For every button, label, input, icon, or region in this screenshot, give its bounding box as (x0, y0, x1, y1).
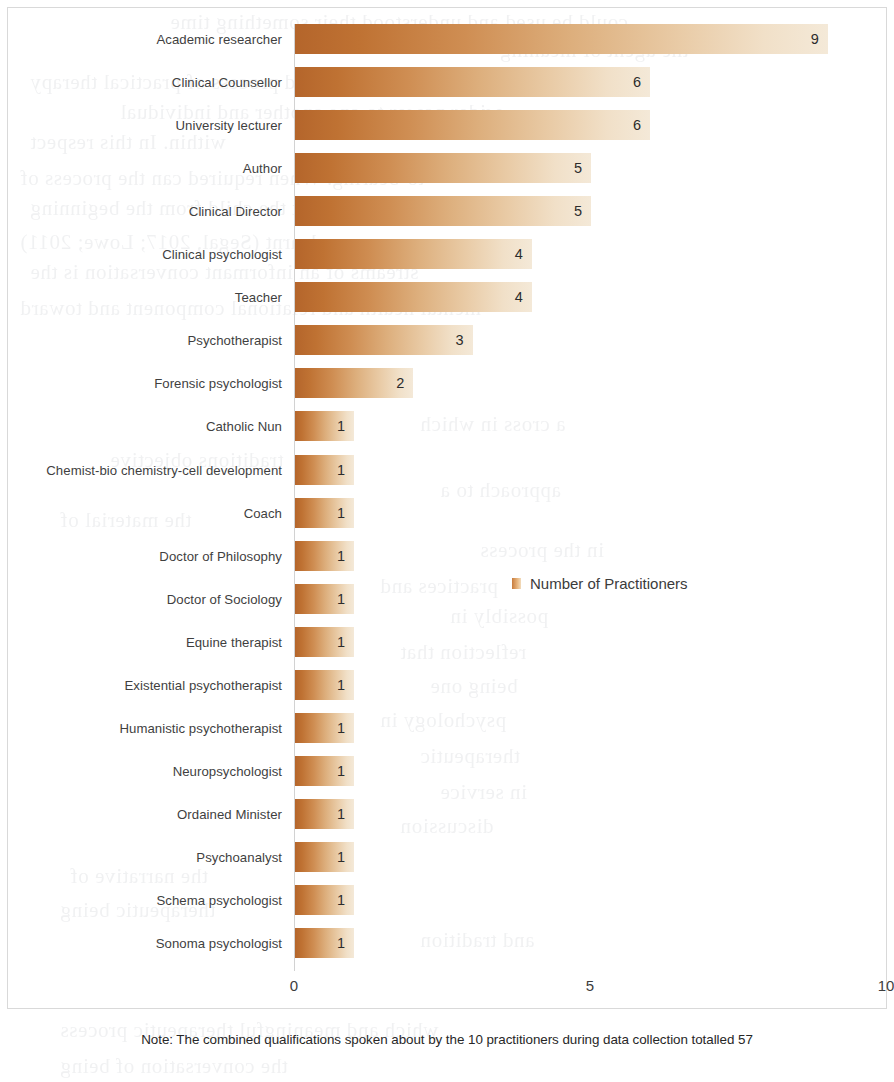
bar-value-label: 5 (574, 203, 582, 219)
category-label: Clinical Counsellor (172, 75, 282, 90)
bar-row: University lecturer6 (294, 110, 886, 140)
bar-value-label: 4 (515, 246, 523, 262)
category-label: Coach (244, 505, 282, 520)
bar: 4 (295, 282, 532, 312)
bar: 2 (295, 368, 413, 398)
bar-row: Psychoanalyst1 (294, 842, 886, 872)
bar-value-label: 1 (337, 591, 345, 607)
bar: 1 (295, 627, 354, 657)
plot-area: Academic researcher9Clinical Counsellor6… (294, 24, 886, 971)
category-label: Equine therapist (186, 634, 282, 649)
category-label: Clinical Director (189, 204, 282, 219)
value-axis-tick: 0 (290, 977, 298, 994)
bar-value-label: 1 (337, 634, 345, 650)
bar-row: Coach1 (294, 498, 886, 528)
bar-value-label: 2 (396, 375, 404, 391)
bar-value-label: 1 (337, 677, 345, 693)
value-axis-tick: 10 (878, 977, 894, 994)
bar: 5 (295, 196, 591, 226)
bar-value-label: 1 (337, 462, 345, 478)
value-axis: 0510 (294, 977, 886, 1003)
bar-value-label: 1 (337, 418, 345, 434)
category-label: Author (243, 161, 282, 176)
bar-row: Clinical psychologist4 (294, 239, 886, 269)
bar: 9 (295, 24, 828, 54)
bar-row: Doctor of Philosophy1 (294, 541, 886, 571)
category-label: University lecturer (176, 118, 282, 133)
bar-value-label: 3 (456, 332, 464, 348)
bar-value-label: 1 (337, 849, 345, 865)
bar-row: Humanistic psychotherapist1 (294, 713, 886, 743)
category-label: Sonoma psychologist (156, 936, 282, 951)
bar-row: Teacher4 (294, 282, 886, 312)
bar-row: Ordained Minister1 (294, 799, 886, 829)
bar-row: Equine therapist1 (294, 627, 886, 657)
category-label: Humanistic psychotherapist (119, 720, 282, 735)
chart-container: Academic researcher9Clinical Counsellor6… (7, 7, 887, 1009)
bar-row: Sonoma psychologist1 (294, 928, 886, 958)
bar: 1 (295, 928, 354, 958)
bar: 6 (295, 110, 650, 140)
legend-label: Number of Practitioners (530, 575, 688, 592)
bar-value-label: 1 (337, 548, 345, 564)
value-axis-tick: 5 (586, 977, 594, 994)
category-label: Forensic psychologist (154, 376, 282, 391)
bar-value-label: 1 (337, 505, 345, 521)
category-label: Doctor of Sociology (167, 591, 282, 606)
category-label: Teacher (235, 290, 282, 305)
bar-value-label: 5 (574, 160, 582, 176)
bleed-text: the conversation of being (60, 1046, 288, 1082)
bar-row: Clinical Counsellor6 (294, 67, 886, 97)
bar-row: Chemist-bio chemistry-cell development1 (294, 455, 886, 485)
category-label: Academic researcher (156, 32, 282, 47)
bar-row: Clinical Director5 (294, 196, 886, 226)
bar-value-label: 1 (337, 720, 345, 736)
chart-note: Note: The combined qualifications spoken… (0, 1032, 894, 1047)
bar: 4 (295, 239, 532, 269)
bar: 1 (295, 842, 354, 872)
bar: 1 (295, 541, 354, 571)
category-label: Schema psychologist (156, 893, 282, 908)
category-label: Ordained Minister (177, 806, 282, 821)
bar: 1 (295, 713, 354, 743)
bar: 1 (295, 584, 354, 614)
bar-row: Author5 (294, 153, 886, 183)
bar: 6 (295, 67, 650, 97)
bar-value-label: 1 (337, 935, 345, 951)
category-label: Catholic Nun (206, 419, 282, 434)
category-label: Existential psychotherapist (125, 677, 282, 692)
category-label: Psychotherapist (187, 333, 282, 348)
bar-value-label: 1 (337, 763, 345, 779)
bar-value-label: 4 (515, 289, 523, 305)
bar-row: Academic researcher9 (294, 24, 886, 54)
bar: 1 (295, 670, 354, 700)
bar: 3 (295, 325, 473, 355)
bar: 5 (295, 153, 591, 183)
bar-value-label: 1 (337, 892, 345, 908)
bar-value-label: 1 (337, 806, 345, 822)
category-label: Psychoanalyst (196, 849, 282, 864)
bar-row: Catholic Nun1 (294, 411, 886, 441)
category-label: Clinical psychologist (162, 247, 282, 262)
category-label: Chemist-bio chemistry-cell development (46, 462, 282, 477)
bar-value-label: 9 (811, 31, 819, 47)
category-label: Neuropsychologist (173, 763, 282, 778)
bar-row: Psychotherapist3 (294, 325, 886, 355)
bar: 1 (295, 756, 354, 786)
bar-row: Schema psychologist1 (294, 885, 886, 915)
bar: 1 (295, 411, 354, 441)
bar: 1 (295, 455, 354, 485)
bar-row: Existential psychotherapist1 (294, 670, 886, 700)
bar-value-label: 6 (633, 74, 641, 90)
category-axis-line (294, 24, 295, 971)
bar-value-label: 6 (633, 117, 641, 133)
bar: 1 (295, 885, 354, 915)
bar: 1 (295, 799, 354, 829)
legend-swatch-icon (512, 578, 521, 589)
bar-row: Forensic psychologist2 (294, 368, 886, 398)
category-label: Doctor of Philosophy (159, 548, 282, 563)
bar-row: Neuropsychologist1 (294, 756, 886, 786)
bar: 1 (295, 498, 354, 528)
chart-legend: Number of Practitioners (512, 575, 688, 592)
